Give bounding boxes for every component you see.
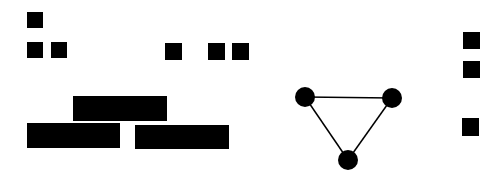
edge-node-a-node-b	[305, 97, 392, 98]
edge-node-a-node-c	[305, 97, 348, 160]
node-b	[382, 88, 402, 108]
edge-node-b-node-c	[348, 98, 392, 160]
triangle-graph	[0, 0, 503, 177]
node-a	[295, 87, 315, 107]
node-c	[338, 150, 358, 170]
